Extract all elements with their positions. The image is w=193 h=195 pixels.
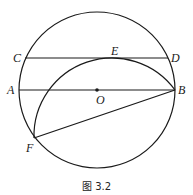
label-a: A [6,83,15,97]
label-b: B [178,83,186,97]
label-f: F [25,141,34,155]
center-point-o [95,88,99,92]
geometry-diagram: C E D A O B F [0,0,193,195]
label-e: E [110,44,119,58]
label-o: O [96,93,105,107]
label-c: C [13,51,22,65]
label-d: D [170,51,180,65]
figure-caption: 图 3.2 [0,178,193,193]
